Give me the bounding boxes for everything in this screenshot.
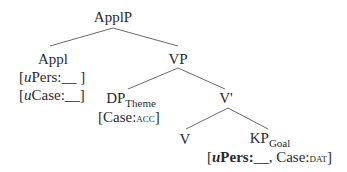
node-label: Appl bbox=[38, 51, 68, 67]
appl-feature-case: [uCase:__] bbox=[19, 87, 85, 104]
node-v: V bbox=[180, 131, 191, 148]
node-vbar: V' bbox=[219, 90, 233, 107]
dp-feature-case: [Case:ACC] bbox=[98, 109, 160, 126]
node-dp-theme: DPTheme bbox=[106, 90, 156, 108]
appl-feature-pers: [uPers:__ ] bbox=[19, 69, 85, 86]
kp-features: [uPers:__, Case:DAT] bbox=[207, 149, 332, 166]
node-label: V bbox=[180, 131, 191, 147]
node-appl: Appl bbox=[38, 51, 68, 68]
edge-applp-appl bbox=[50, 28, 113, 46]
node-kp-goal: KPGoal bbox=[250, 130, 291, 148]
node-applp: ApplP bbox=[94, 9, 132, 26]
node-label: VP bbox=[168, 51, 187, 67]
uninterpretable-marker: u bbox=[24, 69, 32, 85]
node-subscript: Theme bbox=[125, 97, 156, 109]
node-label: V' bbox=[219, 90, 233, 106]
node-subscript: Goal bbox=[269, 137, 290, 149]
node-label: ApplP bbox=[94, 9, 132, 25]
uninterpretable-marker: u bbox=[24, 87, 32, 103]
edge-vp-vbar bbox=[178, 68, 225, 89]
tree-edges bbox=[0, 0, 347, 172]
edge-applp-vp bbox=[113, 28, 178, 46]
edge-vbar-v bbox=[186, 108, 228, 129]
node-vp: VP bbox=[168, 51, 187, 68]
edge-vbar-kp bbox=[228, 108, 268, 129]
edge-vp-dp bbox=[128, 68, 178, 89]
node-label: DP bbox=[106, 90, 125, 106]
node-label: KP bbox=[250, 130, 269, 146]
